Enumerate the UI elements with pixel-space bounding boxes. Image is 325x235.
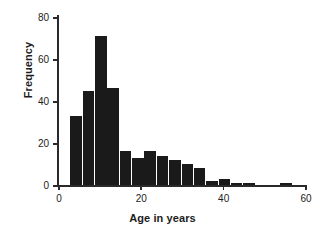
histogram-bar	[280, 183, 292, 185]
y-tick-40: 40	[53, 101, 58, 103]
y-tick-label-0: 0	[43, 180, 49, 191]
y-tick-label-20: 20	[38, 138, 49, 149]
histogram-bar	[83, 91, 95, 186]
histogram-bar	[243, 183, 255, 185]
x-tick-0: 0	[58, 185, 60, 190]
y-tick-20: 20	[53, 143, 58, 145]
y-tick-label-60: 60	[38, 54, 49, 65]
y-axis-label: Frequency	[20, 20, 36, 120]
x-tick-label-40: 40	[218, 193, 229, 204]
x-tick-20: 20	[140, 185, 142, 190]
histogram-bar	[107, 88, 119, 185]
x-axis-line	[57, 185, 306, 187]
y-tick-80: 80	[53, 17, 58, 19]
histogram-bar	[70, 116, 82, 185]
histogram-bar	[157, 156, 169, 185]
plot-area: 0204060800204060	[58, 17, 305, 185]
y-tick-60: 60	[53, 59, 58, 61]
x-axis-label: Age in years	[0, 212, 325, 224]
x-tick-60: 60	[305, 185, 307, 190]
histogram-bar	[219, 179, 231, 185]
histogram-figure: Frequency Age in years 0204060800204060	[0, 0, 325, 235]
histogram-bar	[144, 151, 156, 185]
histogram-bar	[182, 164, 194, 185]
histogram-bar	[169, 160, 181, 185]
histogram-bar	[95, 36, 107, 185]
x-tick-label-60: 60	[300, 193, 311, 204]
histogram-bar	[194, 168, 206, 185]
histogram-bar	[120, 151, 132, 185]
histogram-bar	[132, 158, 144, 185]
x-tick-40: 40	[223, 185, 225, 190]
histogram-bar	[206, 181, 218, 185]
y-tick-label-40: 40	[38, 96, 49, 107]
histogram-bar	[231, 183, 243, 185]
x-tick-label-0: 0	[56, 193, 62, 204]
y-tick-label-80: 80	[38, 12, 49, 23]
x-tick-label-20: 20	[136, 193, 147, 204]
